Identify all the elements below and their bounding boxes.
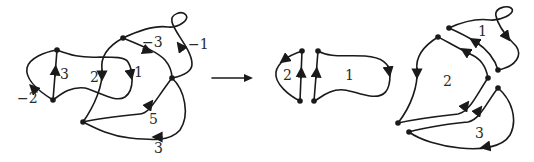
cycle-label: 1: [345, 67, 354, 83]
edge-arrow: [316, 72, 317, 78]
cycle-1-return: [449, 28, 498, 70]
cycle-3-top: [409, 88, 498, 132]
vertex: [495, 85, 501, 91]
edge-arrow: [463, 105, 466, 109]
edge-label: 1: [134, 64, 143, 80]
cycle-label: 3: [475, 125, 484, 141]
vertex: [50, 97, 56, 103]
cycle-2-right: [438, 37, 488, 78]
vertex: [80, 119, 86, 125]
vertex: [299, 48, 305, 54]
edge-label: 2: [90, 69, 99, 85]
vertex: [495, 67, 501, 73]
transform-arrow: [212, 74, 253, 82]
vertex: [311, 98, 317, 104]
vertex: [395, 120, 401, 126]
edge-label: 3: [60, 66, 69, 82]
vertex: [315, 48, 321, 54]
cycle-2-left: [398, 37, 438, 123]
vertex: [446, 25, 452, 31]
edge-arrow: [388, 66, 389, 72]
cycle-decomposition-diagram: 3 −2 2 1 −3 −1 5 3 2 1: [0, 0, 534, 162]
middle-graph: 2 1: [276, 48, 390, 104]
cycle-label: 2: [443, 73, 452, 89]
cycle-label: 1: [478, 23, 487, 39]
edge-label: 5: [149, 111, 158, 127]
edge-arrow: [130, 70, 131, 75]
edge-label: −3: [142, 34, 163, 50]
edge-label: −2: [17, 90, 38, 106]
vertex: [485, 75, 491, 81]
edge-label: 3: [154, 140, 163, 156]
right-graph: 1 2 3: [395, 7, 518, 149]
vertex: [435, 34, 441, 40]
edge-arrow: [180, 46, 183, 50]
edge-weight-2: [83, 38, 123, 122]
vertex: [406, 129, 412, 135]
edge-weight-3-lower: [83, 78, 185, 140]
vertex: [120, 35, 126, 41]
cycle-label: 2: [283, 67, 292, 83]
edge-label: −1: [188, 36, 209, 52]
vertex: [169, 75, 175, 81]
vertex: [297, 98, 303, 104]
left-graph: 3 −2 2 1 −3 −1 5 3: [17, 13, 209, 156]
edge-arrow: [476, 110, 479, 114]
edge-arrow: [485, 146, 490, 147]
vertex: [54, 47, 60, 53]
